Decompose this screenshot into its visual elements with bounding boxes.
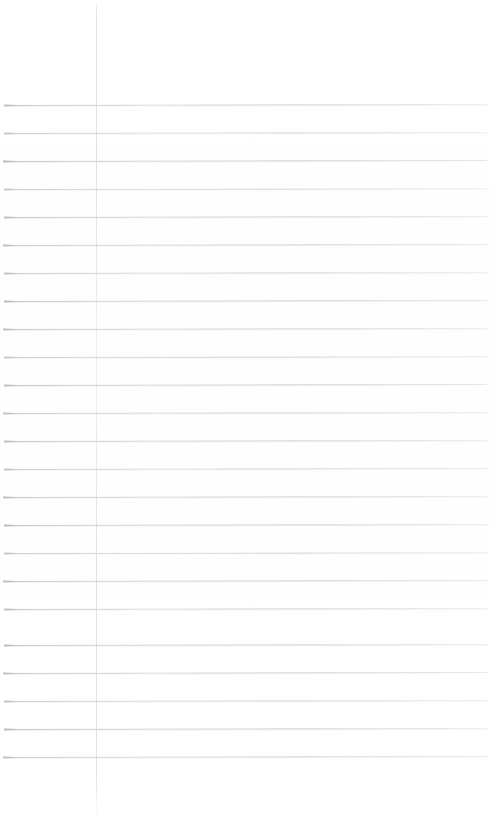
ruled-line-edge-smudge — [4, 728, 18, 731]
ruled-line-edge-smudge — [4, 700, 18, 703]
ruled-line-edge-smudge — [4, 216, 18, 219]
ruled-line-edge-smudge — [3, 328, 17, 331]
ruled-line-edge-smudge — [4, 272, 18, 275]
paper-texture — [0, 0, 494, 815]
ruled-line-edge-smudge — [3, 672, 17, 675]
ruled-line-edge-smudge — [4, 188, 18, 191]
ruled-line — [3, 672, 487, 674]
ruled-line — [4, 132, 487, 134]
ruled-line-edge-smudge — [4, 384, 18, 387]
ruled-line-edge-smudge — [4, 356, 18, 359]
ruled-line — [3, 580, 487, 582]
ruled-line-edge-smudge — [3, 244, 17, 247]
ruled-line — [4, 552, 487, 554]
ruled-line — [4, 384, 487, 386]
ruled-line-edge-smudge — [3, 580, 17, 583]
vertical-margin-line — [96, 2, 97, 813]
ruled-line — [4, 524, 487, 526]
ruled-line — [4, 356, 487, 358]
ruled-line-edge-smudge — [3, 412, 17, 415]
ruled-line-edge-smudge — [3, 496, 17, 499]
ruled-line-edge-smudge — [4, 300, 18, 303]
ruled-line — [4, 728, 487, 730]
ruled-line-edge-smudge — [4, 468, 18, 471]
ruled-line-edge-smudge — [4, 552, 18, 555]
ruled-line-edge-smudge — [4, 104, 18, 107]
ruled-line — [4, 216, 487, 218]
ruled-line — [3, 328, 487, 330]
ruled-line — [3, 412, 487, 414]
ruled-line — [4, 272, 487, 274]
ruled-line-edge-smudge — [3, 160, 17, 163]
ruled-line — [4, 644, 487, 646]
scanned-page — [0, 0, 494, 815]
ruled-line — [4, 700, 487, 702]
ruled-line — [3, 756, 487, 758]
ruled-line — [4, 104, 487, 106]
ruled-line — [3, 244, 487, 246]
ruled-line-edge-smudge — [4, 440, 18, 443]
ruled-line-edge-smudge — [4, 524, 18, 527]
ruled-line — [4, 188, 487, 190]
ruled-line-edge-smudge — [4, 644, 18, 647]
ruled-line — [3, 496, 487, 498]
ruled-line — [4, 440, 487, 442]
ruled-line — [3, 160, 487, 162]
ruled-line — [4, 608, 487, 610]
ruled-line — [4, 468, 487, 470]
ruled-line — [4, 300, 487, 302]
ruled-line-edge-smudge — [3, 756, 17, 759]
ruled-line-edge-smudge — [4, 608, 18, 611]
ruled-line-edge-smudge — [4, 132, 18, 135]
